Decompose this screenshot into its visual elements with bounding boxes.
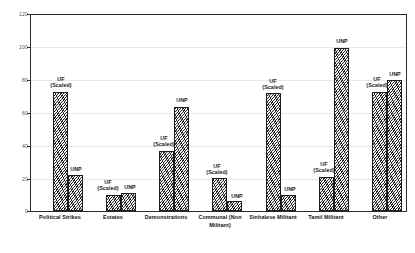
y-axis: 120 100 80 60 40 20 0 (0, 14, 28, 212)
y-tick-label-40: 40 (2, 144, 28, 149)
bar-other-uf-scaled (372, 92, 387, 211)
x-label-line1: Sinhalese Militant (242, 214, 304, 222)
bars-layer: UF (Scaled) UNP UF (Scaled) UNP UF (Scal… (31, 15, 406, 211)
bar-estates-uf-scaled (106, 195, 121, 211)
bar-label-line2: (Scaled) (199, 169, 235, 176)
x-label-political-strikes: Political Strikes (30, 214, 90, 222)
bar-chart: 120 100 80 60 40 20 0 UF (Scaled) (0, 0, 415, 253)
x-label-estates: Estates (83, 214, 143, 222)
bar-demonstrations-unp (174, 107, 189, 212)
bar-label-line1: UF (199, 163, 235, 170)
bar-group-sinhalese-militant: UF (Scaled) UNP (244, 15, 297, 211)
bar-demonstrations-uf-scaled (159, 151, 174, 211)
x-label-line2: Militant) (189, 222, 251, 230)
bar-group-communal-non-militant: UF (Scaled) UNP (190, 15, 244, 211)
bar-group-estates: UF (Scaled) UNP (84, 15, 137, 211)
bar-group-political-strikes: UF (Scaled) UNP (31, 15, 84, 211)
bar-tamil-militant-unp (334, 48, 349, 211)
bar-label-line2: (Scaled) (43, 82, 79, 89)
y-tick-label-60: 60 (2, 111, 28, 116)
x-label-line1: Other (350, 214, 410, 222)
bar-sinhalese-militant-unp (281, 195, 296, 211)
x-label-demonstrations: Demonstrations (136, 214, 196, 222)
y-tick-label-100: 100 (2, 45, 28, 50)
bar-label-other-unp: UNP (383, 71, 407, 78)
bar-other-unp (387, 80, 402, 211)
x-label-line1: Estates (83, 214, 143, 222)
x-label-line1: Demonstrations (136, 214, 196, 222)
x-label-other: Other (350, 214, 410, 222)
bar-label-line2: (Scaled) (255, 84, 291, 91)
bar-label-sinhalese-militant-uf-scaled: UF (Scaled) (255, 78, 291, 91)
bar-estates-unp (121, 193, 136, 211)
bar-political-strikes-uf-scaled (53, 92, 68, 211)
bar-label-political-strikes-uf-scaled: UF (Scaled) (43, 76, 79, 89)
x-axis: Political Strikes Estates Demonstrations… (30, 214, 407, 250)
x-label-line1: Political Strikes (30, 214, 90, 222)
bar-sinhalese-militant-uf-scaled (266, 93, 281, 211)
bar-group-other: UF (Scaled) UNP (350, 15, 406, 211)
bar-group-demonstrations: UF (Scaled) UNP (137, 15, 190, 211)
bar-political-strikes-unp (68, 175, 83, 211)
bar-label-line1: UF (43, 76, 79, 83)
y-tick-label-80: 80 (2, 78, 28, 83)
bar-group-tamil-militant: UF (Scaled) UNP (297, 15, 350, 211)
bar-label-communal-non-militant-uf-scaled: UF (Scaled) (199, 163, 235, 176)
x-label-sinhalese-militant: Sinhalese Militant (242, 214, 304, 222)
x-label-tamil-militant: Tamil Militant (296, 214, 356, 222)
y-tick-label-0: 0 (2, 209, 28, 214)
bar-tamil-militant-uf-scaled (319, 177, 334, 211)
y-tick-label-20: 20 (2, 177, 28, 182)
bar-label-line1: UF (255, 78, 291, 85)
y-tick-label-120: 120 (2, 12, 28, 17)
bar-communal-non-militant-unp (227, 201, 242, 211)
x-label-line1: Tamil Militant (296, 214, 356, 222)
